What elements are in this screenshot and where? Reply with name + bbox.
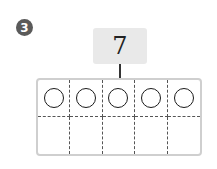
ten-frame-cell[interactable] (168, 80, 200, 117)
ten-frame (36, 78, 202, 156)
circle-counter-icon (44, 88, 64, 108)
ten-frame-cell-empty[interactable] (103, 117, 135, 154)
ten-frame-cell-empty[interactable] (135, 117, 167, 154)
ten-frame-cell[interactable] (38, 80, 70, 117)
problem-number-badge: 3 (16, 19, 33, 36)
ten-frame-cell[interactable] (70, 80, 102, 117)
circle-counter-icon (108, 88, 128, 108)
target-number-box: 7 (93, 28, 147, 64)
circle-counter-icon (174, 88, 194, 108)
target-number: 7 (112, 32, 127, 60)
connector-line (119, 64, 121, 78)
ten-frame-cell-empty[interactable] (38, 117, 70, 154)
problem-number: 3 (20, 21, 28, 35)
ten-frame-cell-empty[interactable] (70, 117, 102, 154)
circle-counter-icon (141, 88, 161, 108)
ten-frame-cell[interactable] (135, 80, 167, 117)
ten-frame-cell[interactable] (103, 80, 135, 117)
ten-frame-cell-empty[interactable] (168, 117, 200, 154)
circle-counter-icon (76, 88, 96, 108)
